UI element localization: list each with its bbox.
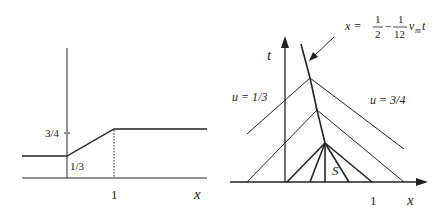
frac1-den: 2 bbox=[375, 28, 381, 40]
diagram-canvas: 3/4 1/3 1 x t x 1 u = 1/3 u = 3/4 S x = … bbox=[0, 0, 448, 215]
left-plot bbox=[22, 48, 207, 178]
label-3-4: 3/4 bbox=[45, 127, 60, 139]
formula-lhs: x = bbox=[344, 19, 361, 33]
right-plot bbox=[230, 36, 428, 186]
formula-sub: m bbox=[415, 26, 421, 35]
shock-formula: x = 1 2 − 1 12 v m t bbox=[344, 13, 426, 40]
right-x-label: x bbox=[406, 192, 414, 208]
formula-minus: − bbox=[385, 19, 392, 33]
fan-ray-2 bbox=[310, 143, 325, 182]
left-x-label: x bbox=[193, 186, 201, 202]
characteristic-left-2 bbox=[247, 110, 317, 182]
characteristic-right-2 bbox=[317, 110, 404, 182]
characteristic-left-1 bbox=[247, 78, 310, 134]
formula-pointer bbox=[314, 37, 334, 56]
frac1-num: 1 bbox=[375, 13, 381, 25]
fan-ray-1 bbox=[287, 143, 325, 182]
frac2-num: 1 bbox=[398, 13, 404, 25]
t-axis-arrowhead bbox=[281, 36, 289, 48]
region-right-label: u = 3/4 bbox=[370, 93, 405, 107]
right-tick-1: 1 bbox=[370, 193, 377, 208]
region-center-label: S bbox=[332, 163, 339, 178]
formula-t: t bbox=[422, 19, 426, 33]
region-left-label: u = 1/3 bbox=[232, 90, 267, 104]
t-axis-label: t bbox=[267, 47, 272, 63]
left-tick-1: 1 bbox=[111, 187, 118, 202]
x-axis-arrowhead bbox=[416, 178, 428, 186]
label-1-3: 1/3 bbox=[70, 160, 85, 172]
frac2-den: 12 bbox=[394, 28, 405, 40]
